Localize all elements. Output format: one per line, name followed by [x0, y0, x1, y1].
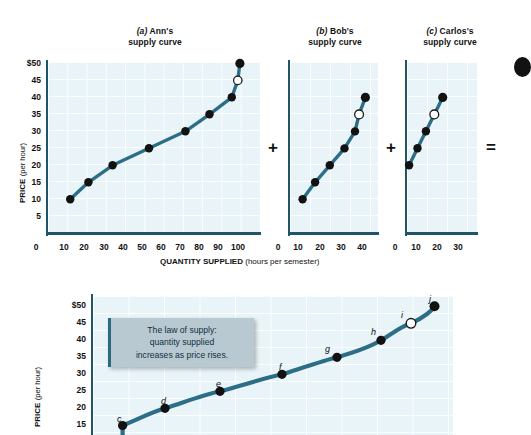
panel-b-xtick-1: 10 [288, 242, 308, 252]
market-price-label-paren: (per hour) [33, 367, 42, 400]
market-ytick-5: 25 [48, 385, 86, 395]
panel-b-subtitle: supply curve [308, 37, 362, 47]
market-panel-edge-dot [514, 57, 531, 77]
market-point-label-d: d [161, 396, 166, 406]
callout-line-3: increases as price rises. [117, 349, 247, 361]
panel-c-subtitle: supply curve [423, 37, 477, 47]
panel-a-xtick-0: 0 [26, 242, 46, 252]
panel-c-xtick-3: 30 [448, 242, 468, 252]
market-ytick-4: 30 [48, 368, 86, 378]
market-y-axis-title: PRICE (per hour) [33, 367, 42, 427]
market-ytick-0: $50 [48, 300, 86, 310]
panel-a-xtick-5: 50 [132, 242, 152, 252]
quantity-axis-title: QUANTITY SUPPLIED (hours per semester) [160, 257, 319, 266]
market-ytick-2: 40 [48, 334, 86, 344]
market-point-label-g: g [325, 344, 330, 354]
market-point-label-f: f [279, 362, 282, 372]
market-ytick-1: 45 [48, 317, 86, 327]
market-ytick-7: 15 [48, 419, 86, 429]
market-point-label-c: c [117, 414, 122, 424]
panel-b-x-axis [288, 232, 379, 235]
panel-a-name: Ann's [150, 26, 174, 36]
panel-a-xtick-1: 10 [54, 242, 74, 252]
panel-a-xtick-8: 80 [189, 242, 209, 252]
law-of-supply-callout: The law of supply: quantity supplied inc… [108, 318, 254, 367]
panel-b-xtick-0: 0 [268, 242, 288, 252]
panel-a-xtick-3: 30 [94, 242, 114, 252]
panel-a-xtick-2: 20 [74, 242, 94, 252]
panel-b-curve [290, 62, 378, 232]
panel-b-xtick-2: 20 [310, 242, 330, 252]
panel-a-ytick-3: 35 [8, 109, 41, 119]
panel-a-ytick-9: 5 [8, 211, 41, 221]
panel-a-x-axis [46, 232, 261, 235]
callout-line-2: quantity supplied [117, 336, 247, 348]
panel-a-xtick-10: 100 [226, 242, 250, 252]
callout-line-1: The law of supply: [117, 324, 247, 336]
panel-c-letter: (c) [426, 26, 437, 36]
panel-a-ytick-2: 40 [8, 92, 41, 102]
panel-a-ytick-0: $50 [8, 58, 41, 68]
market-ytick-6: 20 [48, 402, 86, 412]
plus-operator-2: + [386, 138, 396, 158]
market-point-label-j: j [429, 294, 431, 304]
panel-a-y-axis-title: PRICE (per hour) [18, 143, 27, 203]
panel-a-xtick-6: 60 [151, 242, 171, 252]
panel-a-curve [48, 62, 260, 232]
market-price-label-bold: PRICE [33, 403, 42, 427]
panel-c-name: Carlos's [440, 26, 474, 36]
panel-a-xtick-7: 70 [170, 242, 190, 252]
market-point-label-i: i [401, 310, 403, 320]
price-label-bold: PRICE [18, 179, 27, 203]
panel-a-letter: (a) [137, 26, 148, 36]
panel-a-ytick-4: 30 [8, 126, 41, 136]
panel-c-curve [407, 62, 477, 232]
panel-c-xtick-2: 20 [427, 242, 447, 252]
quantity-label-bold: QUANTITY SUPPLIED [160, 257, 243, 266]
panel-a-subtitle: supply curve [128, 37, 182, 47]
panel-c-title: (c) Carlos's supply curve [400, 26, 500, 48]
plus-operator-1: + [268, 138, 278, 158]
panel-b-title: (b) Bob's supply curve [285, 26, 385, 48]
panel-c-x-axis [405, 232, 478, 235]
panel-b-xtick-3: 30 [331, 242, 351, 252]
panel-a-title: (a) Ann's supply curve [95, 26, 215, 48]
panel-a-xtick-9: 90 [208, 242, 228, 252]
panel-a-xtick-4: 40 [113, 242, 133, 252]
panel-b-xtick-4: 40 [352, 242, 372, 252]
panel-c-xtick-1: 10 [406, 242, 426, 252]
market-point-label-e: e [216, 379, 221, 389]
price-label-paren: (per hour) [18, 143, 27, 176]
panel-b-letter: (b) [316, 26, 327, 36]
panel-a-ytick-1: 45 [8, 75, 41, 85]
panel-b-name: Bob's [330, 26, 354, 36]
quantity-label-paren: (hours per semester) [245, 257, 319, 266]
equals-operator: = [486, 138, 496, 158]
panel-c-xtick-0: 0 [385, 242, 405, 252]
market-point-label-h: h [371, 327, 376, 337]
market-ytick-3: 35 [48, 351, 86, 361]
